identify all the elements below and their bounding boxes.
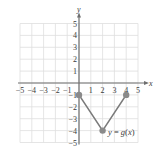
x-tick-label: 2 (101, 86, 105, 95)
axes (18, 13, 149, 145)
function-label: y = g(x) (107, 127, 135, 137)
x-tick-label: 5 (136, 86, 140, 95)
y-tick-label: 5 (73, 20, 77, 29)
y-tick-label: 4 (73, 31, 77, 40)
coordinate-plane: −5−4−3−2−11234554321−1−2−3−4−5 x y y = g… (0, 0, 162, 153)
endpoint-dot (99, 127, 105, 133)
y-tick-label: 1 (73, 67, 77, 76)
x-tick-label: 1 (89, 86, 93, 95)
y-tick-label: −5 (68, 139, 77, 148)
y-tick-label: −2 (68, 103, 77, 112)
x-tick-label: −4 (28, 86, 37, 95)
y-tick-label: 3 (73, 43, 77, 52)
x-axis-label: x (148, 79, 153, 88)
x-tick-label: −3 (39, 86, 48, 95)
endpoint-dot (123, 92, 129, 98)
x-tick-label: −5 (16, 86, 25, 95)
y-tick-label: −3 (68, 115, 77, 124)
x-tick-label: −2 (51, 86, 60, 95)
y-tick-label: −1 (68, 91, 77, 100)
y-tick-label: −4 (68, 127, 77, 136)
y-tick-label: 2 (73, 55, 77, 64)
endpoint-dot (76, 92, 82, 98)
x-tick-label: 3 (112, 86, 116, 95)
y-axis-label: y (76, 5, 81, 14)
